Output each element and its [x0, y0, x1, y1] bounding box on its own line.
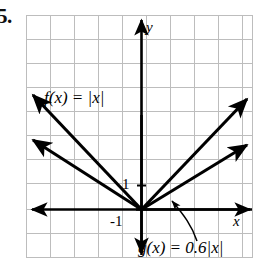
function-g-label-text: g(x) = 0.6|x| — [138, 238, 223, 257]
function-g-label: g(x) = 0.6|x| — [138, 239, 223, 256]
x-axis-label: x — [233, 214, 240, 229]
y-tick-label-positive-one: 1 — [122, 177, 130, 192]
function-f-label: f(x) = |x| — [44, 89, 104, 106]
y-axis-label: y — [146, 20, 153, 35]
absolute-value-graph-figure: 5. — [0, 0, 253, 271]
graph-canvas — [26, 15, 253, 258]
exercise-number: 5. — [0, 6, 12, 27]
function-f-label-text: f(x) = |x| — [44, 88, 104, 107]
y-tick-label-negative-one: -1 — [110, 214, 123, 229]
coordinate-plane — [26, 15, 253, 258]
